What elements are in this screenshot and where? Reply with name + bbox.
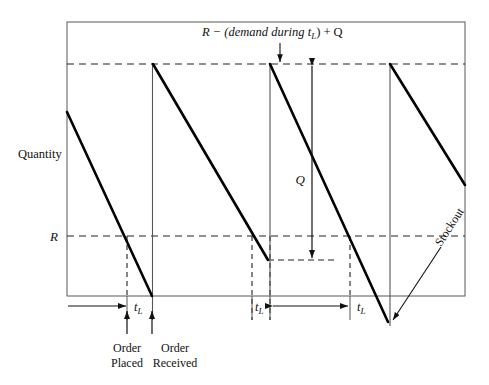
reorder-point-label: R <box>49 229 58 244</box>
lead-time-sub-1: L <box>136 306 142 316</box>
order-received-label-line2: Received <box>153 356 198 370</box>
replenishment-risers <box>153 64 391 326</box>
stockout-arrow <box>393 247 441 320</box>
stockout-label: Stockout <box>432 205 467 249</box>
lead-time-label-3: tL <box>357 300 366 316</box>
lead-time-ticks <box>127 296 350 320</box>
inventory-diagram-figure: Q Quantity R R − (demand during tL) + Q … <box>0 0 489 385</box>
lead-time-sub-2: L <box>257 306 263 316</box>
lead-time-label-2: tL <box>255 300 264 316</box>
inventory-chart-svg: Q Quantity R R − (demand during tL) + Q … <box>0 0 489 385</box>
top-annotation-tail: ) + Q <box>316 25 343 39</box>
order-placed-label-line2: Placed <box>111 356 143 370</box>
top-annotation-head: R − (demand during t <box>201 25 312 39</box>
order-received-label-line1: Order <box>161 341 189 355</box>
lead-time-label-1: tL <box>134 300 143 316</box>
lead-time-sub-3: L <box>359 306 365 316</box>
y-axis-label: Quantity <box>18 147 62 161</box>
order-quantity-label: Q <box>296 172 306 187</box>
top-annotation: R − (demand during tL) + Q <box>201 25 343 41</box>
order-placed-label-line1: Order <box>113 341 141 355</box>
dashed-vertical-guides <box>127 236 350 320</box>
